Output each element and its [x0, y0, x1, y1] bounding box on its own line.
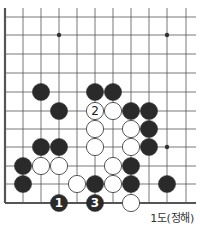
white-stone [122, 138, 139, 155]
black-stone [86, 175, 103, 192]
white-stone [86, 120, 103, 137]
black-stone [50, 138, 67, 155]
black-stone [14, 175, 31, 192]
white-stone [86, 138, 103, 155]
black-stone [140, 102, 157, 119]
black-stone [122, 157, 139, 174]
white-stone [32, 157, 49, 174]
white-stone [122, 194, 139, 211]
star-point-icon [165, 145, 169, 149]
stones-layer: 213 [14, 83, 175, 211]
black-stone-1: 1 [50, 194, 67, 211]
black-stone-3: 3 [86, 194, 103, 211]
white-stone-2: 2 [86, 102, 103, 119]
white-stone [104, 175, 121, 192]
black-stone [86, 83, 103, 100]
black-stone [158, 175, 175, 192]
white-stone [122, 120, 139, 137]
go-board-diagram: 213 [0, 0, 200, 227]
black-stone [32, 83, 49, 100]
black-stone [104, 83, 121, 100]
black-stone [32, 138, 49, 155]
diagram-caption: 1도(정해) [150, 209, 194, 225]
white-stone [104, 157, 121, 174]
black-stone [122, 102, 139, 119]
black-stone [122, 175, 139, 192]
move-number-label: 1 [55, 196, 63, 210]
black-stone [140, 120, 157, 137]
star-point-icon [165, 33, 169, 37]
black-stone [140, 138, 157, 155]
white-stone [50, 157, 67, 174]
move-number-label: 2 [91, 104, 99, 118]
star-point-icon [57, 33, 61, 37]
black-stone [14, 157, 31, 174]
move-number-label: 3 [91, 196, 99, 210]
white-stone [68, 175, 85, 192]
black-stone [50, 102, 67, 119]
white-stone [104, 102, 121, 119]
